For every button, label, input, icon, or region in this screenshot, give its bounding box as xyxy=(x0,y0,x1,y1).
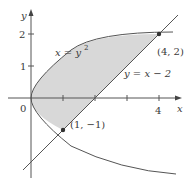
x-axis-label: x xyxy=(177,103,183,114)
origin-label: 0 xyxy=(20,103,26,114)
point-upper-label: (4, 2) xyxy=(157,46,184,57)
y-tick-label-2: 2 xyxy=(19,29,25,40)
y-axis-label: y xyxy=(20,10,27,21)
parabola-label: x = y xyxy=(55,47,81,58)
region-diagram: y x 0 4 2 1 x = y 2 y = x − 2 (4, 2) (1,… xyxy=(0,0,191,184)
point-lower xyxy=(61,128,65,132)
shaded-region xyxy=(31,34,159,130)
point-lower-label: (1, −1) xyxy=(70,119,105,130)
parabola-exponent: 2 xyxy=(84,44,88,52)
y-tick-label-1: 1 xyxy=(20,61,26,72)
line-label: y = x − 2 xyxy=(123,68,171,79)
y-axis-arrow-icon xyxy=(29,9,34,16)
x-tick-label-4: 4 xyxy=(155,105,161,116)
point-upper xyxy=(157,32,161,36)
x-axis-arrow-icon xyxy=(175,96,182,101)
